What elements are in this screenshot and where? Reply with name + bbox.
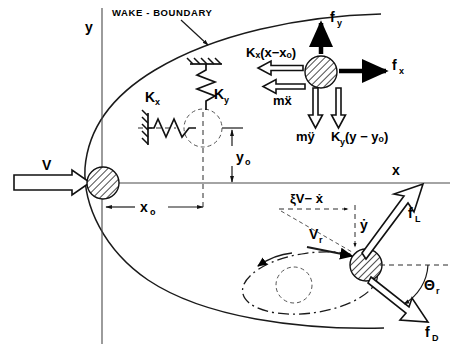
arrow-inertia-y xyxy=(309,88,323,128)
aero-fy-label: f y xyxy=(330,9,342,28)
angle-theta-r-label: Θ r xyxy=(424,277,440,296)
svg-text:f: f xyxy=(425,324,430,340)
diagram-canvas: WAKE - BOUNDARY y x V x o y o K x K y Kₓ… xyxy=(0,0,457,352)
freestream-velocity-label: V xyxy=(42,157,52,173)
vertical-velocity-label: ẏ xyxy=(360,217,368,233)
wake-boundary-leader xyxy=(181,20,208,45)
svg-text:o: o xyxy=(150,207,156,217)
y-offset-label: y o xyxy=(236,149,251,167)
upstream-cylinder xyxy=(87,167,119,199)
svg-text:r: r xyxy=(319,235,323,245)
orbit-inner-circle xyxy=(276,267,312,303)
aero-fx-label: f x xyxy=(392,57,404,76)
svg-text:f: f xyxy=(408,205,413,221)
svg-text:K: K xyxy=(214,86,224,102)
svg-text:o: o xyxy=(245,157,251,167)
svg-text:y: y xyxy=(224,95,229,105)
inertia-y-label: mÿ xyxy=(296,129,316,144)
svg-text:K: K xyxy=(145,89,155,105)
svg-text:L: L xyxy=(415,214,421,224)
arrow-inertia-x xyxy=(263,80,305,94)
freestream-arrow xyxy=(14,170,90,195)
wake-boundary-curve xyxy=(85,14,384,328)
resultant-velocity-label: V r xyxy=(309,226,323,245)
axis-label-x: x xyxy=(392,162,400,178)
inertia-x-label: mẍ xyxy=(273,93,293,108)
arrow-lift-fL xyxy=(362,184,423,259)
spring-force-y-label: K y (y − yₒ) xyxy=(331,129,388,147)
arrow-spring-force-y xyxy=(332,88,346,128)
svg-text:f: f xyxy=(392,57,397,73)
svg-text:Θ: Θ xyxy=(424,277,435,293)
axis-label-y: y xyxy=(85,19,93,35)
spring-ky-label: K y xyxy=(214,86,229,105)
svg-text:V: V xyxy=(309,226,319,242)
spring-kx-label: K x xyxy=(145,89,160,107)
drag-label: f D xyxy=(425,324,439,343)
svg-text:x: x xyxy=(155,97,160,107)
svg-text:r: r xyxy=(436,286,440,296)
svg-text:(y − yₒ): (y − yₒ) xyxy=(345,129,388,144)
upper-body-cylinder xyxy=(305,56,337,88)
svg-text:y: y xyxy=(236,149,244,165)
svg-text:y: y xyxy=(337,18,342,28)
spring-force-x-label: Kₓ(x−xₒ) xyxy=(246,45,296,60)
svg-text:f: f xyxy=(330,9,335,25)
arrow-drag-fD xyxy=(368,277,428,322)
wake-boundary-figure: WAKE - BOUNDARY y x V x o y o K x K y Kₓ… xyxy=(0,0,457,352)
spring-ky xyxy=(187,58,222,110)
svg-text:x: x xyxy=(140,199,148,215)
svg-text:x: x xyxy=(399,66,404,76)
svg-text:D: D xyxy=(432,333,439,343)
x-offset-label: x o xyxy=(140,199,156,217)
arrow-spring-force-x xyxy=(258,61,303,75)
wake-boundary-label: WAKE - BOUNDARY xyxy=(112,7,213,18)
relative-velocity-x-label: ξV− ẋ xyxy=(290,191,324,206)
